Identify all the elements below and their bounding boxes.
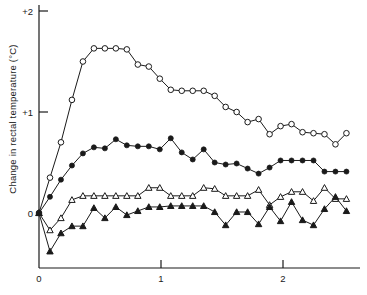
data-point-filled-circle (344, 169, 349, 174)
data-point-filled-circle (135, 144, 140, 149)
data-point-filled-triangle (113, 204, 119, 210)
x-tick-label: 1 (158, 273, 163, 284)
data-point-filled-circle (113, 137, 118, 142)
x-tick-label: 0 (36, 273, 41, 284)
data-point-open-circle (289, 121, 295, 127)
data-point-filled-circle (201, 147, 206, 152)
data-point-open-circle (256, 116, 262, 122)
data-point-filled-circle (80, 151, 85, 156)
data-point-open-circle (344, 130, 350, 136)
data-point-filled-circle (256, 171, 261, 176)
data-point-filled-circle (333, 169, 338, 174)
data-point-open-circle (300, 129, 306, 135)
data-point-open-circle (322, 131, 328, 137)
y-tick-label: 0 (28, 208, 33, 219)
data-series-layer (36, 46, 350, 254)
data-point-open-circle (47, 175, 53, 181)
data-point-filled-triangle (58, 230, 64, 236)
data-point-filled-triangle (310, 222, 316, 228)
data-point-filled-circle (245, 166, 250, 171)
data-point-open-triangle (201, 185, 207, 191)
data-point-open-circle (58, 140, 64, 146)
data-point-filled-circle (322, 169, 327, 174)
y-tick-label: +2 (22, 6, 33, 17)
chart-container: Change in rectal temperature (°C) 0+1+20… (0, 0, 367, 295)
axes (39, 5, 360, 268)
data-point-filled-circle (168, 136, 173, 141)
data-point-filled-triangle (211, 209, 217, 215)
data-point-filled-circle (179, 150, 184, 155)
data-point-open-triangle (58, 215, 64, 221)
x-tick-label: 2 (280, 273, 285, 284)
data-point-open-circle (333, 142, 339, 148)
y-tick-label: +1 (22, 107, 33, 118)
data-point-filled-circle (289, 158, 294, 163)
data-point-open-triangle (255, 187, 261, 193)
data-point-open-circle (179, 88, 185, 94)
data-point-open-circle (113, 46, 119, 52)
data-point-open-circle (267, 131, 273, 137)
data-point-filled-circle (146, 144, 151, 149)
data-point-filled-circle (102, 146, 107, 151)
data-point-filled-circle (212, 160, 217, 165)
data-point-filled-circle (157, 147, 162, 152)
data-point-filled-circle (223, 162, 228, 167)
data-point-open-circle (157, 76, 163, 82)
data-point-filled-circle (311, 158, 316, 163)
data-point-open-triangle (277, 194, 283, 200)
data-point-open-circle (80, 59, 86, 65)
data-point-open-circle (201, 88, 207, 94)
data-point-open-circle (102, 46, 108, 52)
data-point-filled-circle (47, 194, 52, 199)
data-point-filled-circle (69, 163, 74, 168)
data-point-open-circle (311, 130, 317, 136)
data-point-filled-triangle (91, 205, 97, 211)
data-point-open-triangle (321, 185, 327, 191)
data-point-open-circle (168, 87, 174, 93)
data-point-open-circle (212, 93, 218, 99)
data-point-open-circle (190, 88, 196, 94)
data-point-open-circle (69, 97, 75, 103)
data-point-open-circle (234, 109, 240, 115)
data-point-open-circle (124, 47, 130, 53)
data-point-open-circle (146, 64, 152, 70)
data-point-filled-circle (234, 161, 239, 166)
data-point-filled-circle (267, 165, 272, 170)
data-point-open-circle (278, 123, 284, 129)
line-chart-plot: 0+1+2012 (0, 0, 367, 295)
series-filled-triangle (36, 194, 350, 254)
data-point-open-circle (245, 119, 251, 125)
data-point-filled-circle (58, 177, 63, 182)
data-point-open-circle (135, 62, 141, 68)
data-point-filled-circle (124, 143, 129, 148)
data-point-filled-circle (91, 145, 96, 150)
data-point-filled-triangle (299, 217, 305, 223)
data-point-open-circle (223, 104, 229, 110)
data-point-filled-circle (300, 158, 305, 163)
data-point-open-circle (91, 46, 97, 52)
data-point-filled-triangle (47, 248, 53, 254)
data-point-filled-circle (190, 157, 195, 162)
data-point-filled-triangle (288, 199, 294, 205)
data-point-filled-circle (278, 158, 283, 163)
